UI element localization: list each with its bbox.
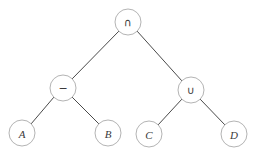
tree-node-intersection[interactable]: ∩: [115, 9, 141, 35]
node-label-intersection: ∩: [124, 16, 132, 29]
tree-edge-root-right: [137, 31, 182, 81]
node-label-set-a: A: [18, 128, 26, 140]
tree-edge-root-left: [72, 31, 119, 79]
node-label-union: ∪: [187, 84, 195, 97]
tree-node-difference[interactable]: −: [50, 75, 76, 101]
tree-node-set-b[interactable]: B: [95, 120, 121, 146]
node-label-set-b: B: [105, 128, 112, 140]
tree-node-union[interactable]: ∪: [178, 77, 204, 103]
tree-node-set-a[interactable]: A: [9, 120, 35, 146]
diagram-canvas: ∩−∪ABCD: [0, 0, 254, 156]
tree-edge-right-leafD: [200, 99, 225, 125]
node-label-set-c: C: [145, 129, 153, 141]
node-label-set-d: D: [229, 129, 238, 141]
tree-edge-left-leafA: [31, 97, 54, 124]
tree-edge-left-leafB: [72, 97, 99, 124]
tree-node-set-d[interactable]: D: [221, 121, 247, 147]
tree-node-set-c[interactable]: C: [136, 121, 162, 147]
expression-tree: ∩−∪ABCD: [0, 0, 254, 156]
tree-edge-right-leafC: [158, 99, 182, 125]
node-label-difference: −: [58, 82, 67, 95]
nodes-group: ∩−∪ABCD: [9, 9, 247, 147]
